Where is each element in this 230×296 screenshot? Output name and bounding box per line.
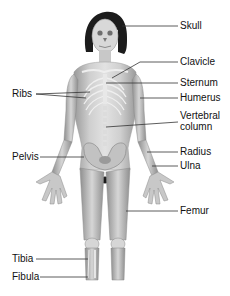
label-sternum: Sternum [180,77,218,88]
left-hand [36,172,67,204]
right-hand [143,172,174,204]
label-skull: Skull [180,20,202,31]
label-tibia: Tibia [12,253,33,264]
label-clavicle: Clavicle [180,56,215,67]
label-ulna: Ulna [180,160,201,171]
label-femur: Femur [180,205,209,216]
label-fibula: Fibula [12,271,39,282]
label-humerus: Humerus [180,92,221,103]
label-vertebral-line1: Vertebral [180,110,220,121]
label-vertebral-line2: column [180,121,212,132]
label-radius: Radius [180,146,211,157]
label-pelvis: Pelvis [12,151,39,162]
label-ribs: Ribs [12,88,32,99]
spine [103,106,107,146]
